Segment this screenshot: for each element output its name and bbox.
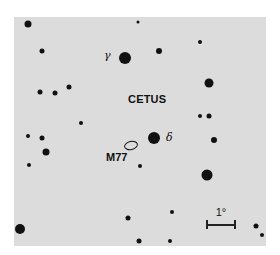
star-icon <box>202 170 213 181</box>
m77-label: M77 <box>106 151 127 163</box>
star-icon <box>38 90 43 95</box>
gamma-label: γ <box>104 49 111 62</box>
star-icon <box>198 114 202 118</box>
star-icon <box>25 21 32 28</box>
scale-bar: 1° <box>206 218 236 230</box>
constellation-name: CETUS <box>128 93 166 105</box>
star-icon <box>211 137 217 143</box>
star-icon <box>40 136 45 141</box>
delta-label: δ <box>166 131 173 144</box>
star-icon <box>260 233 264 237</box>
scale-bar-tick-right <box>234 220 236 229</box>
star-icon <box>198 40 202 44</box>
star-icon <box>205 79 214 88</box>
star-icon <box>170 210 174 214</box>
star-icon <box>53 91 58 96</box>
star-icon <box>26 134 30 138</box>
star-icon <box>79 121 83 125</box>
scale-bar-tick-left <box>206 220 208 229</box>
star-icon <box>15 224 25 234</box>
star-icon <box>137 21 140 24</box>
star-icon <box>40 49 45 54</box>
star-icon <box>27 163 31 167</box>
star-delta-icon <box>148 132 160 144</box>
star-icon <box>254 224 259 229</box>
scale-bar-label: 1° <box>206 206 236 218</box>
star-icon <box>156 48 162 54</box>
star-gamma-icon <box>119 52 131 64</box>
star-icon <box>138 164 142 168</box>
star-icon <box>168 239 172 243</box>
star-icon <box>126 216 131 221</box>
star-icon <box>43 149 50 156</box>
scale-bar-line <box>206 224 236 226</box>
star-icon <box>207 114 212 119</box>
star-icon <box>67 85 72 90</box>
star-icon <box>137 239 142 244</box>
